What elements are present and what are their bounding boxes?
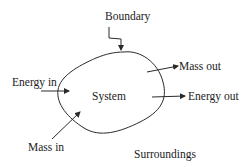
system-diagram: Boundary Energy in System Mass out Energ… <box>0 0 243 167</box>
mass-out-label: Mass out <box>179 60 222 72</box>
energy-in-label: Energy in <box>12 76 57 89</box>
mass-in-label: Mass in <box>28 141 64 153</box>
energy-out-label: Energy out <box>188 90 239 103</box>
mass-in-arrow <box>52 112 80 139</box>
energy-out-arrow <box>152 96 185 97</box>
surroundings-label: Surroundings <box>134 148 197 161</box>
mass-out-arrow <box>147 66 178 72</box>
boundary-pointer-arrow <box>109 27 121 50</box>
system-label: System <box>92 90 126 103</box>
boundary-label: Boundary <box>105 10 151 23</box>
